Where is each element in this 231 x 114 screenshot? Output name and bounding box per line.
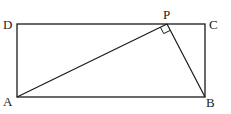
geometry-figure: D P C A B	[0, 0, 231, 114]
label-c: C	[209, 17, 218, 32]
diagram-svg: D P C A B	[0, 0, 231, 114]
label-b: B	[206, 95, 215, 110]
label-a: A	[3, 94, 13, 109]
label-p: P	[163, 7, 170, 22]
segment-ap	[17, 24, 167, 97]
rectangle-abcd	[17, 24, 205, 97]
segment-pb	[167, 24, 205, 97]
label-d: D	[3, 17, 12, 32]
